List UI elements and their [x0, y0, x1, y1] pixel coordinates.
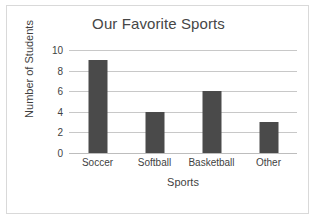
gridline: [69, 153, 297, 154]
x-tick-label: Soccer: [69, 157, 126, 168]
chart-title: Our Favorite Sports: [7, 15, 310, 32]
bar-slot: [69, 50, 126, 153]
bar-slot: [126, 50, 183, 153]
y-tick-label: 2: [57, 127, 63, 138]
y-tick-label: 10: [52, 45, 63, 56]
chart-card: Our Favorite Sports Number of Students 0…: [6, 5, 309, 214]
bar-series: [69, 50, 297, 153]
bar-slot: [240, 50, 297, 153]
bar-slot: [183, 50, 240, 153]
x-tick-label: Softball: [126, 157, 183, 168]
bar: [88, 60, 107, 153]
x-tick-label: Other: [240, 157, 297, 168]
bar: [202, 91, 221, 153]
y-tick-label: 6: [57, 86, 63, 97]
y-tick-label: 0: [57, 148, 63, 159]
y-axis-title: Number of Students: [22, 9, 36, 129]
x-tick-label: Basketball: [183, 157, 240, 168]
bar: [259, 122, 278, 153]
y-tick-label: 8: [57, 65, 63, 76]
bar: [145, 112, 164, 153]
y-tick-label: 4: [57, 106, 63, 117]
plot-area: 0246810 SoccerSoftballBasketballOther: [69, 50, 297, 153]
x-axis-title: Sports: [69, 176, 297, 188]
